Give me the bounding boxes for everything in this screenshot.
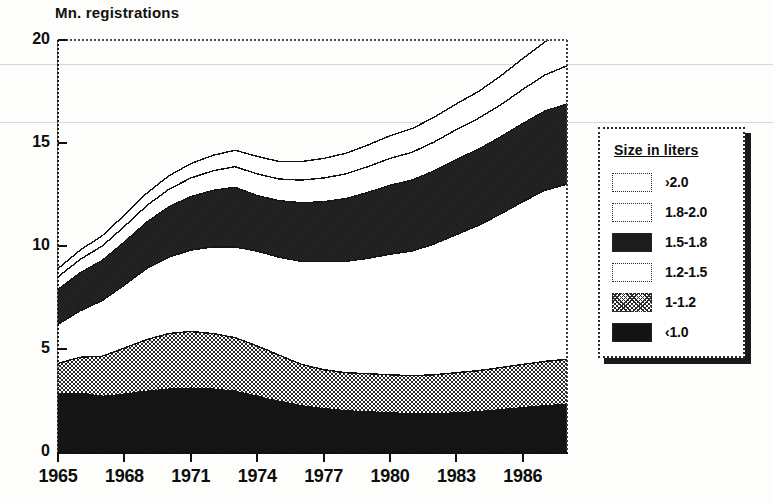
y-tick-label: 0 — [0, 443, 50, 459]
plot-area — [58, 40, 567, 452]
x-tick-label: 1977 — [304, 466, 343, 487]
x-tick-label: 1983 — [437, 466, 476, 487]
legend-item[interactable]: ›2.0 — [612, 167, 737, 197]
x-tick-label: 1965 — [39, 466, 78, 487]
legend-item[interactable]: ‹1.0 — [612, 317, 737, 347]
plot-top-border — [58, 39, 567, 41]
x-tick-label: 1968 — [105, 466, 144, 487]
legend-item-label: ‹1.0 — [665, 324, 688, 340]
legend-title: Size in liters — [614, 142, 699, 158]
y-tick-mark — [58, 142, 67, 144]
x-tick-mark — [190, 453, 192, 462]
y-tick-label: 5 — [0, 340, 50, 356]
legend-swatch-icon — [612, 233, 652, 252]
x-tick-mark — [57, 453, 59, 462]
legend-item[interactable]: 1.2-1.5 — [612, 257, 737, 287]
y-tick-mark — [58, 245, 67, 247]
legend-item-label: 1.8-2.0 — [665, 204, 707, 220]
x-tick-label: 1974 — [238, 466, 277, 487]
legend-swatch-icon — [612, 203, 652, 222]
y-tick-label: 15 — [0, 134, 50, 150]
x-tick-mark — [256, 453, 258, 462]
x-tick-mark — [123, 453, 125, 462]
x-tick-mark — [522, 453, 524, 462]
x-tick-label: 1971 — [171, 466, 210, 487]
legend-item-label: 1-1.2 — [665, 294, 696, 310]
y-axis-title: Mn. registrations — [55, 4, 179, 21]
legend-items: ›2.01.8-2.01.5-1.81.2-1.51-1.2‹1.0 — [612, 167, 737, 347]
legend-swatch-icon — [612, 293, 652, 312]
y-tick-mark — [58, 451, 67, 453]
stacked-area-chart — [58, 40, 567, 452]
y-tick-label: 10 — [0, 237, 50, 253]
legend-swatch-icon — [612, 323, 652, 342]
x-axis-line — [57, 452, 568, 454]
y-tick-mark — [58, 348, 67, 350]
legend-box: Size in liters ›2.01.8-2.01.5-1.81.2-1.5… — [598, 127, 745, 358]
x-tick-label: 1980 — [371, 466, 410, 487]
legend-swatch-icon — [612, 263, 652, 282]
legend-swatch-icon — [612, 173, 652, 192]
x-tick-mark — [323, 453, 325, 462]
legend-item-label: ›2.0 — [665, 174, 688, 190]
legend-item[interactable]: 1.8-2.0 — [612, 197, 737, 227]
y-tick-label: 20 — [0, 31, 50, 47]
x-tick-mark — [455, 453, 457, 462]
y-tick-mark — [58, 39, 67, 41]
legend-item-label: 1.5-1.8 — [665, 234, 707, 250]
legend-item[interactable]: 1-1.2 — [612, 287, 737, 317]
legend-item[interactable]: 1.5-1.8 — [612, 227, 737, 257]
x-tick-mark — [389, 453, 391, 462]
plot-right-border — [566, 40, 568, 452]
legend-item-label: 1.2-1.5 — [665, 264, 707, 280]
x-tick-label: 1986 — [503, 466, 542, 487]
